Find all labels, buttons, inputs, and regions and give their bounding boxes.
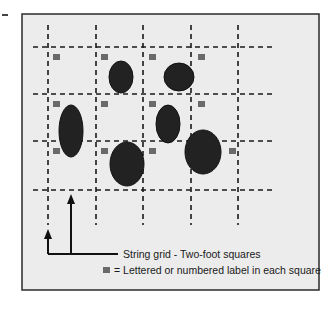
label-square-icon bbox=[198, 54, 205, 60]
artifact-ellipse bbox=[185, 130, 221, 174]
label-square-icon bbox=[149, 54, 156, 60]
legend-label-square-icon bbox=[103, 267, 110, 273]
label-square-icon bbox=[53, 54, 60, 60]
label-square-icon bbox=[53, 101, 60, 107]
label-square-icon bbox=[101, 148, 108, 154]
legend-label-key-text: = Lettered or numbered label in each squ… bbox=[114, 264, 321, 276]
label-square-icon bbox=[198, 101, 205, 107]
excavation-grid-diagram: String grid - Two-foot squares = Lettere… bbox=[0, 0, 335, 310]
label-square-icon bbox=[53, 148, 60, 154]
label-square-icon bbox=[101, 54, 108, 60]
artifact-ellipse bbox=[109, 61, 133, 93]
label-square-icon bbox=[229, 148, 236, 154]
artifact-ellipse bbox=[156, 105, 180, 143]
artifact-ellipse bbox=[164, 63, 194, 91]
label-square-icon bbox=[149, 101, 156, 107]
label-square-icon bbox=[101, 101, 108, 107]
label-square-icon bbox=[149, 148, 156, 154]
artifact-ellipse bbox=[59, 105, 83, 157]
legend-string-grid-text: String grid - Two-foot squares bbox=[123, 248, 261, 260]
artifact-ellipse bbox=[110, 142, 144, 186]
